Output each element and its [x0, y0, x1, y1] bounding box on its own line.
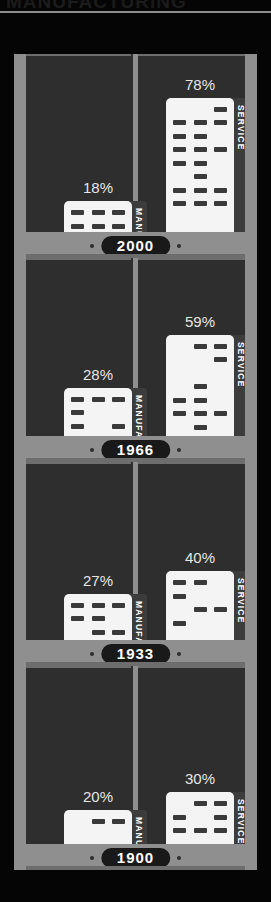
bar-manufacturing-1900[interactable]: 20%MANUFACTURING [64, 810, 132, 844]
building-window [112, 397, 125, 402]
building-window [194, 828, 207, 833]
building-window [194, 147, 207, 152]
building-window [194, 120, 207, 125]
building-window [92, 630, 105, 635]
building-window [194, 188, 207, 193]
building-window [194, 411, 207, 416]
building-window [71, 410, 84, 415]
building-window [173, 411, 186, 416]
building-icon [64, 810, 132, 844]
cell-top-rule [26, 666, 131, 668]
building-window [173, 161, 186, 166]
cell-top-rule [138, 54, 245, 56]
building-window [214, 120, 227, 125]
bar-value-label: 27% [83, 572, 113, 589]
building-window [112, 424, 125, 429]
pill-dot-icon [177, 244, 181, 248]
pill-dot-icon [177, 448, 181, 452]
building-window [173, 201, 186, 206]
building-window [173, 134, 186, 139]
bar-value-label: 59% [185, 313, 215, 330]
building-window [194, 174, 207, 179]
pill-dot-icon [90, 244, 94, 248]
cell-top-rule [138, 666, 245, 668]
building-icon [166, 335, 234, 436]
building-window [112, 224, 125, 229]
building-window [194, 801, 207, 806]
bar-manufacturing-1933[interactable]: 27%MANUFACTURING [64, 594, 132, 640]
building-window [194, 607, 207, 612]
bar-manufacturing-2000[interactable]: 18%MANUFACTURING [64, 201, 132, 232]
building-window [194, 201, 207, 206]
bar-service-1900[interactable]: 30%SERVICE [166, 792, 234, 844]
building-window [194, 161, 207, 166]
pill-dot-icon [90, 856, 94, 860]
building-window [214, 107, 227, 112]
building-window [194, 398, 207, 403]
building-window [173, 147, 186, 152]
bar-value-label: 40% [185, 549, 215, 566]
building-icon [64, 201, 132, 232]
bar-manufacturing-1966[interactable]: 28%MANUFACTURING [64, 388, 132, 436]
building-window [92, 224, 105, 229]
bar-value-label: 78% [185, 76, 215, 93]
building-window [194, 134, 207, 139]
year-label-1966[interactable]: 1966 [101, 440, 170, 460]
year-row: 20%MANUFACTURING30%SERVICE1900 [26, 666, 245, 870]
year-label-2000[interactable]: 2000 [101, 236, 170, 256]
title-divider [0, 11, 271, 13]
building-window [71, 397, 84, 402]
bar-service-1966[interactable]: 59%SERVICE [166, 335, 234, 436]
ground-bar-shadow [26, 866, 245, 870]
building-window [173, 188, 186, 193]
series-tab-label: SERVICE [236, 342, 246, 388]
building-window [214, 188, 227, 193]
building-window [92, 603, 105, 608]
series-tab-manufacturing: MANUFACTURING [130, 810, 147, 844]
year-label-1900[interactable]: 1900 [101, 848, 170, 868]
series-tab-label: SERVICE [236, 578, 246, 624]
building-window [194, 384, 207, 389]
building-window [214, 801, 227, 806]
cell-top-rule [26, 54, 131, 56]
year-row: 28%MANUFACTURING59%SERVICE1966 [26, 258, 245, 462]
bar-service-1933[interactable]: 40%SERVICE [166, 571, 234, 640]
cell-top-rule [138, 258, 245, 260]
building-window [92, 397, 105, 402]
building-window [214, 411, 227, 416]
building-window [173, 120, 186, 125]
building-window [71, 424, 84, 429]
bar-service-2000[interactable]: 78%SERVICE [166, 98, 234, 232]
cell-top-rule [26, 462, 131, 464]
building-window [214, 607, 227, 612]
building-icon [166, 792, 234, 844]
building-window [173, 580, 186, 585]
building-window [214, 357, 227, 362]
building-window [214, 147, 227, 152]
building-window [194, 344, 207, 349]
building-icon [166, 571, 234, 640]
building-window [71, 224, 84, 229]
building-window [71, 210, 84, 215]
building-window [214, 815, 227, 820]
pill-dot-icon [90, 448, 94, 452]
building-window [112, 630, 125, 635]
building-window [92, 819, 105, 824]
building-icon [64, 594, 132, 640]
series-tab-manufacturing: MANUFACTURING [130, 388, 147, 436]
series-tab-manufacturing: MANUFACTURING [130, 594, 147, 640]
building-window [214, 828, 227, 833]
year-label-1933[interactable]: 1933 [101, 644, 170, 664]
building-window [112, 603, 125, 608]
building-window [71, 603, 84, 608]
building-window [112, 819, 125, 824]
series-tab-label: SERVICE [236, 105, 246, 151]
chart-frame: 18%MANUFACTURING78%SERVICE200028%MANUFAC… [14, 54, 257, 870]
series-tab-manufacturing: MANUFACTURING [130, 201, 147, 232]
bar-value-label: 20% [83, 788, 113, 805]
year-row: 27%MANUFACTURING40%SERVICE1933 [26, 462, 245, 666]
cell-top-rule [26, 258, 131, 260]
series-tab-label: SERVICE [236, 799, 246, 845]
building-window [173, 398, 186, 403]
pill-dot-icon [90, 652, 94, 656]
